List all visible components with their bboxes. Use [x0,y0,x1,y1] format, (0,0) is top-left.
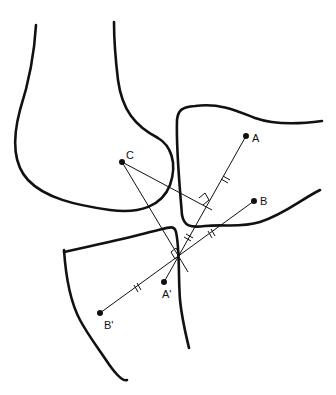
point-b-prime [97,310,103,316]
point-b [251,198,257,204]
label-a-prime: A' [162,288,171,300]
label-a: A [252,132,260,144]
point-c [119,159,125,165]
lower-bone-outline [64,250,127,380]
line-c-to-perp-a [122,162,212,210]
upper-bone-outline [15,22,173,211]
label-c: C [126,149,134,161]
segment-a-a-prime [164,136,246,282]
tick-marks-a-upper [221,176,230,183]
label-b: B [260,195,267,207]
right-angle-marker-upper [199,193,209,205]
point-a-prime [161,279,167,285]
right-bone-outline [177,105,322,226]
joint-rotation-diagram: A B C A' B' [0,0,336,395]
point-a [243,133,249,139]
label-b-prime: B' [104,319,113,331]
